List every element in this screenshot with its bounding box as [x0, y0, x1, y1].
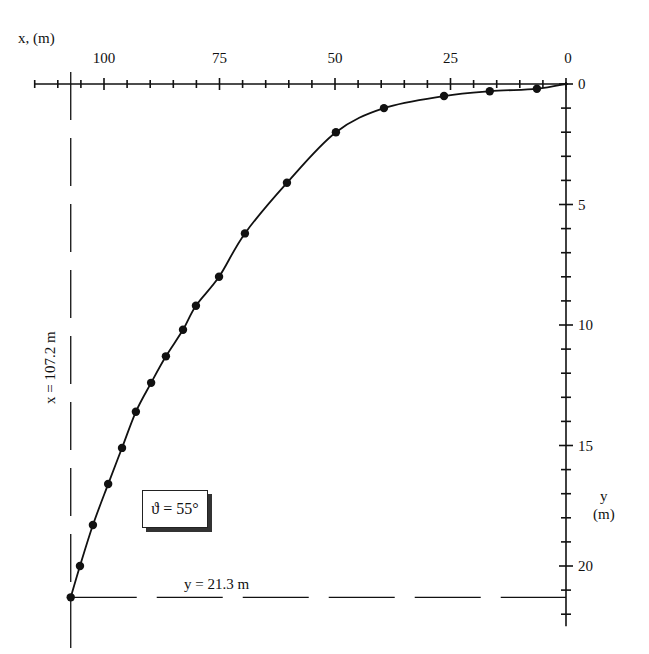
data-point: [283, 179, 291, 187]
y-tick-label: 0: [578, 76, 586, 93]
data-point: [162, 352, 170, 360]
data-point: [380, 104, 388, 112]
data-point: [104, 480, 112, 488]
data-point: [533, 85, 541, 93]
y-range-label: y = 21.3 m: [180, 576, 253, 593]
y-tick-label: 15: [578, 437, 593, 454]
y-tick-label: 5: [578, 196, 586, 213]
data-point: [179, 326, 187, 334]
axes: [34, 78, 573, 626]
angle-label-box: ϑ = 55°: [142, 490, 208, 528]
data-point: [132, 408, 140, 416]
data-point: [440, 92, 448, 100]
data-point: [241, 229, 249, 237]
x-tick-label: 100: [93, 50, 116, 67]
x-tick-label: 25: [443, 50, 458, 67]
x-tick-label: 50: [328, 50, 343, 67]
data-point: [118, 444, 126, 452]
x-range-label: x = 107.2 m: [42, 327, 59, 408]
y-axis-title-unit: (m): [593, 505, 615, 523]
data-point: [215, 273, 223, 281]
data-points: [67, 85, 542, 602]
trajectory-chart: [0, 0, 649, 654]
angle-label: ϑ = 55°: [151, 500, 198, 518]
dashed-guides: [71, 72, 566, 650]
data-point: [89, 521, 97, 529]
x-axis-title: x, (m): [18, 30, 55, 47]
y-tick-label: 10: [578, 317, 593, 334]
data-point: [192, 302, 200, 310]
data-point: [67, 593, 75, 601]
x-tick-label: 75: [212, 50, 227, 67]
y-tick-label: 20: [578, 558, 593, 575]
x-tick-label: 0: [564, 50, 572, 67]
data-point: [486, 87, 494, 95]
y-axis-title-y: y: [593, 487, 615, 505]
y-axis-title: y (m): [593, 487, 615, 523]
data-point: [147, 379, 155, 387]
data-point: [332, 128, 340, 136]
data-point: [76, 562, 84, 570]
